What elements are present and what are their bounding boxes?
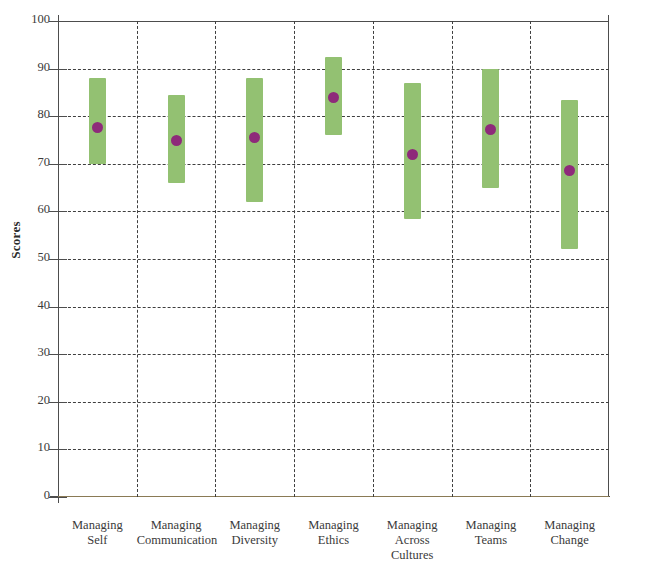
gridline-100 <box>58 21 609 22</box>
y-tick-label-0: 0 <box>6 488 50 503</box>
x-category-label-5: ManagingTeams <box>452 518 531 548</box>
x-axis-baseline <box>58 496 609 497</box>
x-category-label-line: Across <box>373 533 452 548</box>
x-category-label-line: Teams <box>452 533 531 548</box>
y-tick-50 <box>49 259 67 260</box>
gridline-50 <box>58 259 609 260</box>
category-separator-1 <box>137 21 138 497</box>
y-tick-40 <box>49 307 67 308</box>
y-tick-70 <box>49 164 67 165</box>
gridline-30 <box>58 354 609 355</box>
gridline-70 <box>58 164 609 165</box>
x-category-label-line: Diversity <box>215 533 294 548</box>
y-tick-label-40: 40 <box>6 298 50 313</box>
x-category-label-line: Change <box>530 533 609 548</box>
y-tick-10 <box>49 449 67 450</box>
y-tick-30 <box>49 354 67 355</box>
x-category-label-line: Managing <box>137 518 216 533</box>
category-separator-6 <box>530 21 531 497</box>
y-tick-60 <box>49 211 67 212</box>
mean-point <box>92 122 103 133</box>
x-category-label-3: ManagingEthics <box>294 518 373 548</box>
y-tick-label-10: 10 <box>6 440 50 455</box>
category-separator-4 <box>373 21 374 497</box>
x-category-label-line: Managing <box>58 518 137 533</box>
x-category-label-line: Ethics <box>294 533 373 548</box>
y-tick-label-70: 70 <box>6 155 50 170</box>
y-tick-label-30: 30 <box>6 345 50 360</box>
x-axis-category-labels: ManagingSelfManagingCommunicationManagin… <box>58 518 609 572</box>
x-category-label-line: Managing <box>530 518 609 533</box>
gridline-10 <box>58 449 609 450</box>
x-category-label-6: ManagingChange <box>530 518 609 548</box>
x-category-label-line: Managing <box>452 518 531 533</box>
mean-point <box>328 92 339 103</box>
x-category-label-line: Managing <box>294 518 373 533</box>
x-category-label-line: Communication <box>137 533 216 548</box>
y-tick-label-100: 100 <box>6 12 50 27</box>
plot-area <box>58 21 609 497</box>
x-category-label-0: ManagingSelf <box>58 518 137 548</box>
x-category-label-line: Managing <box>215 518 294 533</box>
mean-point <box>407 149 418 160</box>
y-tick-0 <box>49 497 67 498</box>
score-range-chart: Scores ManagingSelfManagingCommunication… <box>0 0 652 572</box>
y-tick-label-80: 80 <box>6 107 50 122</box>
y-tick-label-60: 60 <box>6 202 50 217</box>
gridline-20 <box>58 402 609 403</box>
x-category-label-line: Managing <box>373 518 452 533</box>
y-tick-80 <box>49 116 67 117</box>
y-tick-100 <box>49 21 67 22</box>
x-category-label-line: Self <box>58 533 137 548</box>
category-separator-3 <box>294 21 295 497</box>
y-tick-label-50: 50 <box>6 250 50 265</box>
x-category-label-4: ManagingAcrossCultures <box>373 518 452 563</box>
y-tick-label-20: 20 <box>6 393 50 408</box>
mean-point <box>171 135 182 146</box>
category-separator-2 <box>215 21 216 497</box>
range-bar <box>89 78 106 164</box>
x-category-label-line: Cultures <box>373 548 452 563</box>
y-tick-90 <box>49 69 67 70</box>
y-tick-20 <box>49 402 67 403</box>
x-category-label-2: ManagingDiversity <box>215 518 294 548</box>
x-category-label-1: ManagingCommunication <box>137 518 216 548</box>
plot-right-border <box>608 15 609 497</box>
gridline-60 <box>58 211 609 212</box>
y-tick-label-90: 90 <box>6 60 50 75</box>
gridline-40 <box>58 307 609 308</box>
category-separator-5 <box>452 21 453 497</box>
